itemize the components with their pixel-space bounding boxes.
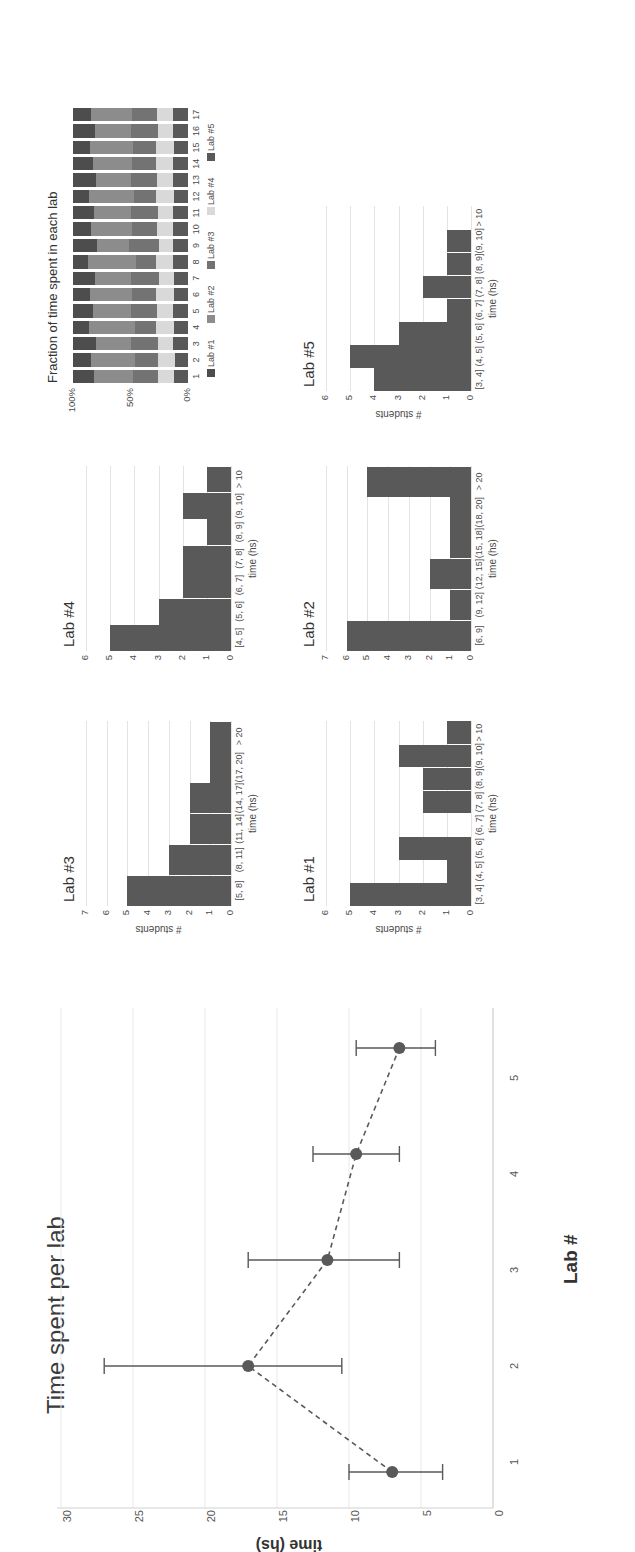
stacked-segment [159, 272, 174, 285]
lab2-bar [450, 528, 471, 558]
stacked-segment [73, 255, 88, 268]
stacked-segment [73, 173, 96, 186]
stacked-segment [73, 321, 89, 334]
lab1-ytick: 4 [367, 910, 378, 932]
lab3-bar [169, 845, 231, 875]
stacked-segment [173, 255, 188, 268]
lab5-title: Lab #5 [300, 341, 317, 387]
lab5-ytick: 6 [319, 395, 330, 417]
stacked-legend-item: Lab #2 [206, 285, 216, 323]
panel-stacked: Fraction of time spent in each lab0%50%1… [45, 87, 275, 417]
panel-lab1: Lab #1# students0123456[3, 4](4, 5](5, 6… [300, 717, 505, 932]
lab2-ytick: 7 [319, 655, 330, 677]
lab5-ytick: 0 [464, 395, 475, 417]
stacked-segment [174, 288, 188, 301]
lab5-bar [447, 253, 471, 276]
stacked-segment [136, 255, 156, 268]
stacked-segment [88, 255, 136, 268]
lab1-gridline [374, 721, 375, 906]
stacked-segment [173, 222, 188, 235]
lab1-ytick: 5 [343, 910, 354, 932]
stacked-segment [131, 124, 159, 137]
stacked-segment [73, 190, 89, 203]
panel-lab5: Lab #5# students0123456[3, 4](4, 5](5, 6… [300, 202, 505, 417]
lab4-bar [207, 467, 231, 493]
stacked-segment [91, 108, 131, 121]
main-xtick-5: 5 [508, 1068, 520, 1088]
lab4-bar [183, 546, 231, 572]
lab1-bar [423, 791, 471, 814]
lab5-plot [326, 206, 471, 391]
stacked-segment [157, 108, 173, 121]
main-ytick-20: 20 [205, 1510, 217, 1536]
stacked-segment [174, 321, 188, 334]
main-ytick-0: 0 [493, 1510, 505, 1536]
lab2-bar [367, 467, 471, 497]
main-ytick-30: 30 [61, 1510, 73, 1536]
lab1-ytick: 0 [464, 910, 475, 932]
lab4-xlabel: time (hs) [247, 466, 258, 651]
stacked-segment [90, 288, 131, 301]
stacked-segment [174, 141, 188, 154]
stacked-segment [174, 370, 188, 383]
stacked-segment [132, 108, 157, 121]
stacked-segment [73, 157, 93, 170]
lab5-ytick: 5 [343, 395, 354, 417]
stacked-segment [173, 124, 188, 137]
lab1-bar [399, 745, 472, 768]
panel-lab4: Lab #40123456[4, 5](5, 6](6, 7](7, 8](8,… [60, 462, 265, 677]
lab2-ytick: 5 [360, 655, 371, 677]
stacked-segment [95, 272, 131, 285]
lab3-ytick: 2 [183, 910, 194, 932]
lab4-gridline [86, 466, 87, 651]
lab5-xtick: > 10 [474, 200, 484, 235]
stacked-segment [96, 337, 131, 350]
lab4-gridline [110, 466, 111, 651]
lab3-bar [210, 722, 231, 752]
panel-lab3: Lab #3# students01234567[5, 8](8, 11](11… [60, 717, 265, 932]
lab2-bar [450, 497, 471, 527]
lab5-bar [374, 368, 471, 391]
stacked-segment [73, 272, 95, 285]
lab4-ytick: 5 [103, 655, 114, 677]
lab3-ytick: 3 [162, 910, 173, 932]
lab1-gridline [350, 721, 351, 906]
stacked-segment [90, 141, 133, 154]
lab5-bar [447, 230, 471, 253]
lab4-xtick: > 10 [234, 460, 244, 498]
stacked-segment [95, 124, 131, 137]
stacked-legend-item: Lab #3 [206, 231, 216, 269]
stacked-segment [73, 222, 91, 235]
main-xtick-3: 3 [508, 1260, 520, 1280]
stacked-segment [173, 173, 188, 186]
main-chart-plot [36, 978, 506, 1508]
stacked-segment [173, 239, 188, 252]
stacked-segment [157, 304, 173, 317]
main-ytick-25: 25 [133, 1510, 145, 1536]
lab3-title: Lab #3 [60, 856, 77, 902]
lab2-plot [326, 466, 471, 651]
stacked-segment [73, 370, 94, 383]
lab5-gridline [326, 206, 327, 391]
lab4-ytick: 2 [176, 655, 187, 677]
lab2-ytick: 6 [340, 655, 351, 677]
lab4-bar [183, 493, 231, 519]
main-ytick-10: 10 [349, 1510, 361, 1536]
lab5-ytick: 1 [440, 395, 451, 417]
figure-canvas: Time spent per lab time (hs) Lab # 0 5 1… [0, 0, 635, 1552]
lab1-bar [399, 837, 472, 860]
lab4-bar [159, 599, 232, 625]
stacked-segment [73, 239, 97, 252]
lab5-bar [447, 299, 471, 322]
stacked-segment [96, 173, 131, 186]
stacked-segment [94, 370, 133, 383]
stacked-ytick: 100% [66, 388, 77, 417]
lab3-gridline [231, 721, 232, 906]
lab5-ytick: 3 [392, 395, 403, 417]
lab3-bar [127, 876, 231, 906]
stacked-segment [73, 108, 91, 121]
stacked-segment [133, 141, 156, 154]
lab2-ytick: 4 [381, 655, 392, 677]
stacked-ytick: 0% [181, 388, 192, 417]
main-xtick-4: 4 [508, 1164, 520, 1184]
